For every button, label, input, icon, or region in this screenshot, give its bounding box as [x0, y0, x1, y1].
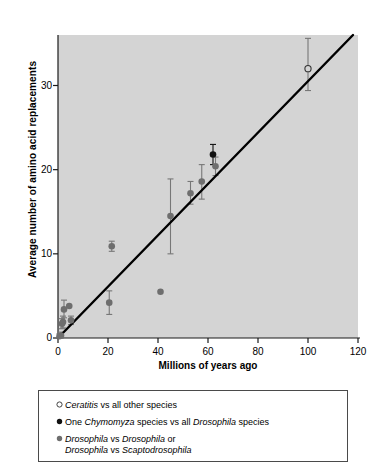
legend: Ceratitis vs all other species One Chymo…	[38, 390, 348, 462]
data-point	[198, 178, 205, 185]
x-tick-label: 20	[94, 346, 122, 357]
data-point	[60, 319, 67, 326]
x-tick-label: 60	[194, 346, 222, 357]
x-tick-label: 40	[144, 346, 172, 357]
data-point	[167, 213, 174, 220]
data-point	[58, 332, 65, 339]
filled-circle-marker-icon	[53, 417, 65, 428]
y-tick-label: 0	[22, 332, 52, 343]
legend-item-chymomyza: One Chymomyza species vs all Drosophila …	[53, 417, 269, 428]
x-tick-label: 0	[44, 346, 72, 357]
data-point	[212, 163, 219, 170]
data-point	[157, 288, 164, 295]
y-tick-label: 20	[22, 164, 52, 175]
gray-circle-marker-icon	[53, 434, 65, 445]
y-tick-label: 30	[22, 80, 52, 91]
data-point	[66, 303, 73, 310]
x-tick-label: 80	[244, 346, 272, 357]
x-tick-label: 100	[294, 346, 322, 357]
data-point	[187, 190, 194, 197]
data-point	[68, 317, 75, 324]
y-tick-label: 10	[22, 248, 52, 259]
x-axis-title: Millions of years ago	[58, 360, 358, 371]
legend-item-ceratitis: Ceratitis vs all other species	[53, 400, 177, 411]
data-point	[210, 151, 217, 158]
data-point-open	[305, 66, 311, 72]
open-circle-marker-icon	[53, 400, 65, 411]
data-point	[108, 243, 115, 250]
figure-container: Average number of amino acid replacement…	[0, 0, 386, 470]
data-point	[106, 299, 113, 306]
legend-item-drosophila: Drosophila vs Drosophila or Drosophila v…	[53, 434, 192, 456]
x-tick-label: 120	[344, 346, 372, 357]
